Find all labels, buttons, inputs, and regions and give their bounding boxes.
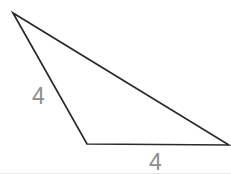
geometry-figure: 4 4 [0, 0, 231, 174]
side-length-label-left: 4 [32, 85, 45, 108]
side-length-label-bottom: 4 [149, 151, 162, 174]
triangle-shape [13, 13, 229, 145]
bottom-edge-artifact [0, 173, 231, 174]
